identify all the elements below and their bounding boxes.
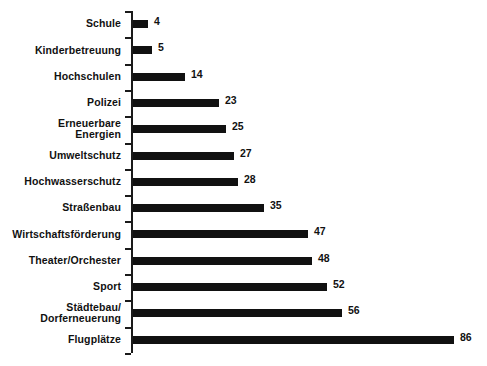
category-label: Straßenbau [1, 202, 121, 214]
bar-row: Theater/Orchester48 [0, 248, 487, 274]
bar-container [133, 11, 148, 37]
bar-container [133, 274, 327, 300]
category-label: Hochwasserschutz [1, 176, 121, 188]
bar [133, 230, 308, 238]
bar-row: Flugplätze86 [0, 327, 487, 353]
bar-value-label: 5 [158, 41, 164, 53]
category-label: Schule [1, 18, 121, 30]
bar-row: Schule4 [0, 11, 487, 37]
bar [133, 99, 219, 107]
bar [133, 125, 226, 133]
plot-area: Schule4Kinderbetreuung5Hochschulen14Poli… [0, 0, 487, 366]
bar-value-label: 27 [240, 147, 252, 159]
category-label: Städtebau/ Dorferneuerung [1, 302, 121, 325]
bar [133, 257, 312, 265]
bar-value-label: 56 [348, 304, 360, 316]
axis-tick [125, 353, 131, 355]
bar-chart: Schule4Kinderbetreuung5Hochschulen14Poli… [0, 0, 487, 366]
category-label: Erneuerbare Energien [1, 118, 121, 141]
bar-value-label: 4 [154, 15, 160, 27]
bar-container [133, 248, 312, 274]
bar-row: Hochwasserschutz28 [0, 169, 487, 195]
category-label: Polizei [1, 97, 121, 109]
bar-container [133, 221, 308, 247]
bar-row: Wirtschaftsförderung47 [0, 221, 487, 247]
bar-value-label: 86 [460, 331, 472, 343]
bar-value-label: 35 [270, 199, 282, 211]
bar-row: Straßenbau35 [0, 195, 487, 221]
bar [133, 178, 238, 186]
bar-row: Städtebau/ Dorferneuerung56 [0, 300, 487, 326]
category-label: Umweltschutz [1, 150, 121, 162]
bar-row: Umweltschutz27 [0, 143, 487, 169]
bar [133, 283, 327, 291]
bar [133, 46, 152, 54]
bar [133, 152, 234, 160]
bar-container [133, 90, 219, 116]
bar-row: Kinderbetreuung5 [0, 37, 487, 63]
bar [133, 20, 148, 28]
bar-value-label: 28 [244, 173, 256, 185]
bar-container [133, 327, 454, 353]
bar-row: Erneuerbare Energien25 [0, 116, 487, 142]
bar-row: Hochschulen14 [0, 64, 487, 90]
bar-value-label: 14 [191, 68, 203, 80]
bar-container [133, 64, 185, 90]
bar-value-label: 52 [333, 278, 345, 290]
bar-container [133, 195, 264, 221]
bar-value-label: 48 [318, 252, 330, 264]
bar-value-label: 25 [232, 120, 244, 132]
bar [133, 204, 264, 212]
category-label: Hochschulen [1, 71, 121, 83]
bar-container [133, 37, 152, 63]
bar-container [133, 116, 226, 142]
bar-value-label: 47 [314, 225, 326, 237]
bar [133, 73, 185, 81]
category-label: Sport [1, 281, 121, 293]
bar-container [133, 169, 238, 195]
bar-container [133, 143, 234, 169]
bar [133, 309, 342, 317]
bar-row: Polizei23 [0, 90, 487, 116]
category-label: Kinderbetreuung [1, 45, 121, 57]
bar [133, 336, 454, 344]
category-label: Wirtschaftsförderung [1, 229, 121, 241]
category-label: Flugplätze [1, 334, 121, 346]
bar-value-label: 23 [225, 94, 237, 106]
bar-row: Sport52 [0, 274, 487, 300]
bar-container [133, 300, 342, 326]
category-label: Theater/Orchester [1, 255, 121, 267]
